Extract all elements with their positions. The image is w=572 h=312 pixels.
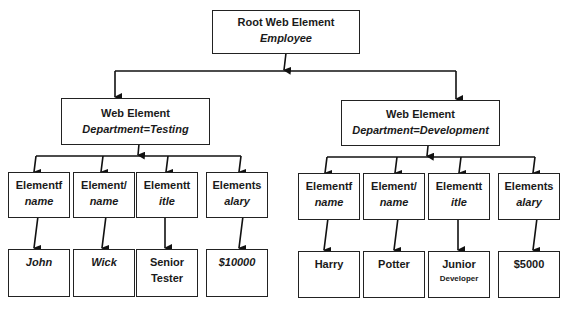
value-box-firstname: John <box>8 249 70 297</box>
department-subtitle: Department=Development <box>342 123 499 139</box>
value-text: Wick <box>74 255 134 271</box>
value-text-line1: Senior <box>137 255 197 271</box>
field-sublabel: itle <box>137 194 197 210</box>
value-box-lastname: Wick <box>73 249 135 297</box>
field-box-firstname: Elementf name <box>298 173 360 220</box>
department-testing-box: Web Element Department=Testing <box>61 98 210 145</box>
field-sublabel: alary <box>499 195 559 211</box>
value-text: $10000 <box>207 255 267 271</box>
field-sublabel: name <box>9 194 69 210</box>
field-label: Element/ <box>364 179 424 195</box>
value-box-firstname: Harry <box>298 251 360 298</box>
value-text: John <box>9 255 69 271</box>
root-title: Root Web Element <box>213 15 359 31</box>
department-title: Web Element <box>62 106 209 122</box>
field-box-lastname: Element/ name <box>73 172 135 218</box>
field-box-salary: Elements alary <box>498 173 560 220</box>
value-text-line2: Developer <box>429 273 489 285</box>
value-box-title: Junior Developer <box>428 251 490 298</box>
field-label: Elementt <box>429 179 489 195</box>
root-element-box: Root Web Element Employee <box>212 10 360 54</box>
field-sublabel: name <box>74 194 134 210</box>
value-box-title: Senior Tester <box>136 249 198 297</box>
field-sublabel: name <box>299 195 359 211</box>
value-text: $5000 <box>499 257 559 273</box>
field-box-firstname: Elementf name <box>8 172 70 218</box>
field-label: Elements <box>499 179 559 195</box>
value-text-line1: Junior <box>429 257 489 273</box>
field-box-salary: Elements alary <box>206 172 268 218</box>
value-text: Potter <box>364 257 424 273</box>
value-box-salary: $10000 <box>206 249 268 297</box>
field-sublabel: alary <box>207 194 267 210</box>
root-subtitle: Employee <box>213 31 359 47</box>
field-label: Elementf <box>9 178 69 194</box>
department-title: Web Element <box>342 107 499 123</box>
value-box-lastname: Potter <box>363 251 425 298</box>
field-box-title: Elementt itle <box>136 172 198 218</box>
department-subtitle: Department=Testing <box>62 122 209 138</box>
field-label: Element/ <box>74 178 134 194</box>
value-text: Harry <box>299 257 359 273</box>
department-development-box: Web Element Department=Development <box>341 100 500 146</box>
field-sublabel: itle <box>429 195 489 211</box>
field-sublabel: name <box>364 195 424 211</box>
value-text-line2: Tester <box>137 271 197 287</box>
field-label: Elementt <box>137 178 197 194</box>
field-label: Elementf <box>299 179 359 195</box>
field-label: Elements <box>207 178 267 194</box>
field-box-title: Elementt itle <box>428 173 490 220</box>
value-box-salary: $5000 <box>498 251 560 298</box>
field-box-lastname: Element/ name <box>363 173 425 220</box>
